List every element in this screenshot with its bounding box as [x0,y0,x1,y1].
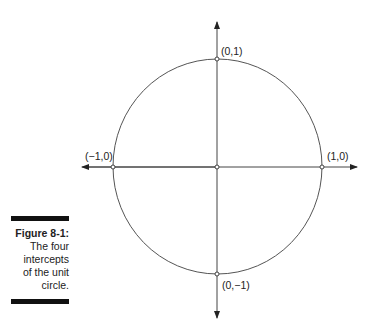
caption-line: circle. [11,279,69,292]
figure-caption: Figure 8-1: The four intercepts of the u… [11,216,69,304]
label-top: (0,1) [221,45,243,57]
origin-point [215,165,219,169]
label-left: (−1,0) [85,150,113,162]
intercept-left-point [111,165,115,169]
caption-text: Figure 8-1: The four intercepts of the u… [11,221,69,299]
intercept-bottom-point [215,272,219,276]
caption-line: intercepts [11,253,69,266]
caption-line: of the unit [11,266,69,279]
caption-bottom-bar [11,299,69,304]
figure-number: Figure 8-1: [11,227,69,240]
caption-line: The four [11,240,69,253]
label-bottom: (0,−1) [222,279,250,291]
label-right: (1,0) [327,150,349,162]
intercept-right-point [320,165,324,169]
intercept-top-point [215,57,219,61]
